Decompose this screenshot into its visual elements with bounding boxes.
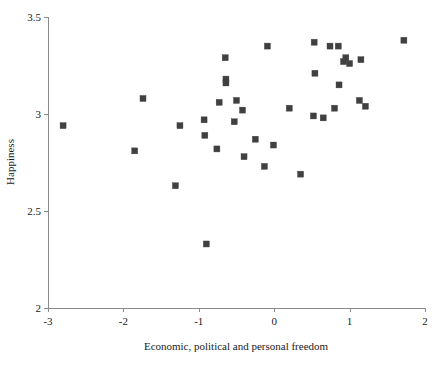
y-axis-title: Happiness — [4, 139, 16, 185]
data-point — [203, 241, 209, 247]
plot-canvas: 22.533.5-3-2-1012 Economic, political an… — [0, 0, 444, 365]
data-point — [234, 97, 240, 103]
data-point — [264, 43, 270, 49]
x-tick-label--2: -2 — [119, 315, 128, 327]
axes — [48, 17, 425, 309]
data-point — [231, 119, 237, 125]
data-point — [223, 80, 229, 86]
x-tick-label-0: 0 — [271, 315, 277, 327]
data-point — [240, 107, 246, 113]
data-point — [201, 117, 207, 123]
data-point — [312, 70, 318, 76]
data-point — [286, 105, 292, 111]
data-point — [177, 123, 183, 129]
x-tick-label--1: -1 — [194, 315, 203, 327]
data-point — [327, 43, 333, 49]
data-point — [335, 43, 341, 49]
data-point — [358, 57, 364, 63]
y-tick-label-2: 2 — [36, 302, 42, 314]
data-point — [222, 55, 228, 61]
data-point — [310, 113, 316, 119]
data-points — [60, 37, 407, 247]
y-tick-label-2.5: 2.5 — [27, 205, 41, 217]
tick-marks — [44, 18, 426, 313]
data-point — [311, 39, 317, 45]
y-tick-label-3: 3 — [36, 108, 42, 120]
data-point — [216, 99, 222, 105]
data-point — [336, 82, 342, 88]
data-point — [362, 103, 368, 109]
data-point — [347, 61, 353, 67]
x-tick-label--3: -3 — [43, 315, 53, 327]
scatter-plot-figure: 22.533.5-3-2-1012 Economic, political an… — [0, 0, 444, 365]
data-point — [261, 163, 267, 169]
data-point — [343, 55, 349, 61]
data-point — [214, 146, 220, 152]
data-point — [298, 171, 304, 177]
x-tick-label-2: 2 — [422, 315, 428, 327]
data-point — [241, 154, 247, 160]
data-point — [320, 115, 326, 121]
data-point — [132, 148, 138, 154]
data-point — [270, 142, 276, 148]
x-tick-label-1: 1 — [347, 315, 353, 327]
data-point — [356, 97, 362, 103]
x-axis-title: Economic, political and personal freedom — [144, 340, 329, 352]
data-point — [252, 136, 258, 142]
data-point — [60, 123, 66, 129]
data-point — [202, 132, 208, 138]
y-tick-label-3.5: 3.5 — [27, 11, 41, 23]
data-point — [332, 105, 338, 111]
data-point — [401, 37, 407, 43]
data-point — [172, 183, 178, 189]
data-point — [140, 95, 146, 101]
